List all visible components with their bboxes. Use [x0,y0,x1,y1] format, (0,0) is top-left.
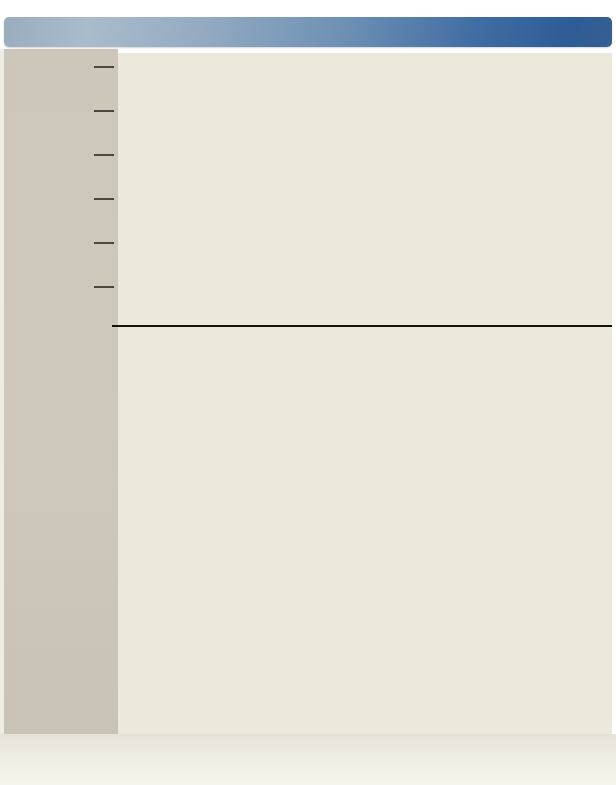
percent-axis-group [94,67,612,326]
chart-figure [0,0,616,785]
